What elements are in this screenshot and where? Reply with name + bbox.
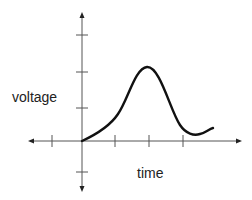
voltage-curve	[82, 67, 213, 141]
x-axis-label: time	[137, 165, 163, 181]
y-axis-down-arrow-icon	[80, 186, 85, 192]
y-axis-up-arrow-icon	[80, 12, 85, 18]
x-axis-left-arrow-icon	[28, 139, 34, 144]
x-axis-right-arrow-icon	[236, 139, 242, 144]
y-axis-label: voltage	[12, 89, 57, 105]
